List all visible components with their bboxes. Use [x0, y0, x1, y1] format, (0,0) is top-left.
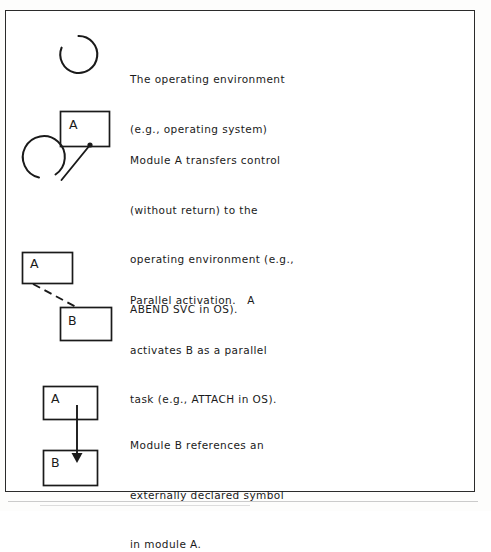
- transfer-control-symbol: [23, 112, 110, 181]
- caption-line: (without return) to the: [130, 202, 294, 219]
- open-circle-icon: [23, 136, 65, 177]
- control-transfer-line: [62, 145, 91, 180]
- module-box-b-label: B: [68, 315, 77, 328]
- scan-artifact-line: [8, 501, 478, 502]
- caption-line: activates B as a parallel: [130, 342, 277, 359]
- arrowhead-down-icon: [72, 453, 83, 463]
- operating-environment-symbol: [60, 36, 97, 73]
- module-box-b-label: B: [51, 457, 60, 470]
- scan-artifact-line: [40, 505, 250, 506]
- caption-line: Parallel activation. A: [130, 292, 277, 309]
- module-box-a-label: A: [69, 119, 78, 132]
- module-box-a-label: A: [51, 393, 60, 406]
- caption-line: Module A transfers control: [130, 152, 294, 169]
- caption-line: in module A.: [130, 536, 284, 552]
- connector-origin-dot: [87, 142, 92, 147]
- parallel-activation-dashed-line: [33, 284, 76, 307]
- module-box-a: [61, 112, 110, 147]
- open-circle-icon: [60, 36, 97, 73]
- caption-line: The operating environment: [130, 71, 285, 88]
- module-box-a-label: A: [30, 258, 39, 271]
- caption-line: Module B references an: [130, 437, 284, 454]
- caption-external-reference: Module B references an externally declar…: [130, 404, 284, 552]
